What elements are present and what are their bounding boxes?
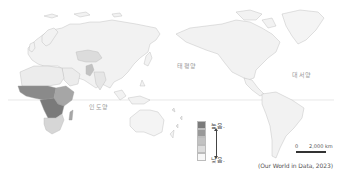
legend: 높음. 낮음. — [197, 121, 237, 165]
source-citation: (Our World in Data, 2023) — [258, 162, 333, 169]
scale-bar: 0 2,000 km — [295, 143, 337, 157]
region-arctic-islands — [44, 12, 122, 18]
region-central-america — [244, 78, 264, 96]
scale-bar-line — [296, 151, 326, 153]
legend-double-arrow-icon — [216, 130, 217, 157]
region-pacific-islands — [172, 108, 182, 128]
region-north-africa — [20, 66, 64, 86]
legend-swatch-4 — [197, 145, 206, 153]
legend-swatch-5 — [197, 153, 206, 161]
region-new-zealand — [170, 130, 174, 138]
scale-max-label: 2,000 km — [309, 143, 333, 149]
legend-swatch-1 — [197, 121, 206, 129]
legend-swatch-2 — [197, 129, 206, 137]
region-greenland — [282, 10, 324, 44]
indian-ocean-label: 인도양 — [89, 102, 109, 111]
atlantic-ocean-label: 대서양 — [292, 70, 312, 79]
world-choropleth-map — [0, 0, 342, 180]
region-madagascar — [69, 110, 73, 120]
region-west-africa — [18, 86, 56, 100]
region-australia — [130, 110, 164, 136]
legend-low-label: 낮음. — [211, 155, 225, 164]
region-southeast-asia — [114, 80, 150, 104]
legend-swatch-3 — [197, 137, 206, 145]
pacific-ocean-label: 태평양 — [177, 61, 197, 70]
region-north-america — [176, 20, 280, 80]
scale-zero-label: 0 — [295, 143, 298, 149]
